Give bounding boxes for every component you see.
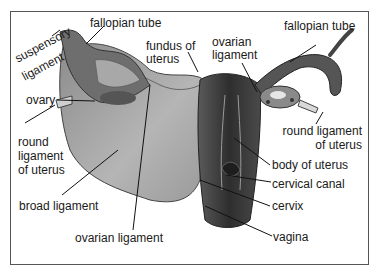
right-round-ligament-shape (298, 100, 318, 113)
label-fallopian-tube-left: fallopian tube (90, 17, 161, 30)
label-broad-ligament: broad ligament (19, 200, 98, 213)
label-round-ligament-right-2: of uterus (282, 139, 362, 152)
label-vagina: vagina (273, 231, 308, 244)
label-cervix: cervix (272, 200, 303, 213)
label-fallopian-tube-right: fallopian tube (284, 20, 355, 33)
label-ovarian-ligament-bottom: ovarian ligament (75, 232, 163, 245)
label-cervical-canal: cervical canal (272, 178, 345, 191)
right-tube-shape (255, 30, 352, 95)
right-ovary-shape (260, 86, 300, 108)
label-body-of-uterus: body of uterus (272, 159, 348, 172)
label-round-ligament-left-2: ligament (18, 150, 63, 163)
label-round-ligament-left-1: round (18, 136, 49, 149)
label-fundus-2: uterus (146, 53, 179, 66)
label-ovarian-ligament-top-2: ligament (212, 49, 257, 62)
label-round-ligament-left-3: of uterus (18, 164, 65, 177)
label-round-ligament-right-1: round ligament (282, 125, 362, 138)
label-ovary: ovary (26, 94, 55, 107)
